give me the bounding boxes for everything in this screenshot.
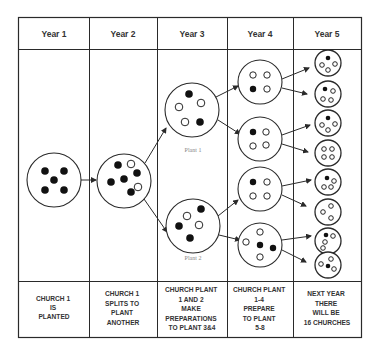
member-open-dot-icon [329,216,334,221]
church-circle-year2-1 [97,154,151,208]
footer-year-4: CHURCH PLANT 1-4 PREPARE TO PLANT 5-8 [233,286,287,331]
member-open-dot-icon [321,246,326,251]
member-filled-dot-icon [114,161,122,169]
member-open-dot-icon [264,193,270,199]
arrow-icon [282,125,310,135]
church-circle-year5-2 [315,81,341,107]
plant-1-label: Plant 1 [185,147,202,153]
member-open-dot-icon [263,142,269,148]
member-filled-dot-icon [196,118,204,126]
member-filled-dot-icon [323,87,328,92]
member-open-dot-icon [326,68,331,73]
header-year-4: Year 4 [247,29,272,39]
member-filled-dot-icon [60,167,68,175]
plant-2-label: Plant 2 [185,255,202,261]
header-year-5: Year 5 [314,29,339,39]
member-open-dot-icon [330,147,335,152]
member-filled-dot-icon [41,167,49,175]
arrow-icon [282,88,307,94]
member-filled-dot-icon [133,169,141,177]
member-open-dot-icon [322,185,327,190]
member-open-dot-icon [333,122,338,127]
member-open-dot-icon [332,267,337,272]
member-open-dot-icon [331,89,336,94]
member-filled-dot-icon [186,234,194,242]
member-filled-dot-icon [257,242,263,248]
member-open-dot-icon [322,147,327,152]
member-filled-dot-icon [325,176,330,181]
arrow-icon [218,120,240,134]
member-filled-dot-icon [41,186,49,194]
footer-year-2: CHURCH 1 SPLITS TO PLANT ANOTHER [105,290,141,326]
member-filled-dot-icon [326,116,331,121]
member-open-dot-icon [127,160,135,168]
member-filled-dot-icon [127,188,135,196]
member-open-dot-icon [332,179,337,184]
arrow-icon [282,144,308,152]
member-filled-dot-icon [185,90,193,98]
member-open-dot-icon [321,210,326,215]
church-circle-year5-5 [315,169,341,195]
member-open-dot-icon [250,72,256,78]
church-circle-year4-2 [238,117,282,161]
member-filled-dot-icon [250,129,256,135]
church-circle-year5-4 [315,140,341,166]
arrow-icon [145,128,166,163]
footer-year-1: CHURCH 1 IS PLANTED [36,295,72,320]
member-filled-dot-icon [107,178,115,186]
church-circle-year3-2 [166,199,220,253]
member-open-dot-icon [264,72,270,78]
member-open-dot-icon [319,262,324,267]
footer-year-5: NEXT YEAR THERE WILL BE 16 CHURCHES [304,290,351,326]
church-circle-year1-1 [27,153,81,207]
church-circle-year4-4 [238,223,282,267]
member-filled-dot-icon [250,86,256,92]
member-open-dot-icon [329,185,334,190]
member-open-dot-icon [195,221,203,229]
header-year-3: Year 3 [179,29,204,39]
church-circle-year4-1 [238,60,282,104]
member-filled-dot-icon [326,56,331,61]
church-circle-year5-6 [315,199,341,225]
arrow-icon [282,236,311,240]
member-open-dot-icon [264,86,270,92]
member-open-dot-icon [263,129,269,135]
member-open-dot-icon [181,118,189,126]
member-open-dot-icon [326,128,331,133]
member-open-dot-icon [134,183,142,191]
member-open-dot-icon [250,193,256,199]
member-filled-dot-icon [50,176,58,184]
member-filled-dot-icon [326,264,331,269]
member-open-dot-icon [320,63,325,68]
church-circle-year5-3 [315,110,341,136]
church-circle-year5-8 [315,252,341,278]
member-open-dot-icon [250,143,256,149]
header-year-2: Year 2 [110,29,135,39]
header-year-1: Year 1 [41,29,66,39]
member-open-dot-icon [321,97,326,102]
member-open-dot-icon [331,234,336,239]
member-filled-dot-icon [120,175,128,183]
member-open-dot-icon [257,254,263,260]
member-open-dot-icon [320,123,325,128]
church-planting-diagram: Year 1 Year 2 Year 3 Year 4 Year 5 CHURC… [0,0,381,356]
header-row: Year 1 Year 2 Year 3 Year 4 Year 5 [41,29,339,39]
member-open-dot-icon [322,155,327,160]
member-open-dot-icon [264,179,270,185]
member-open-dot-icon [197,99,205,107]
member-open-dot-icon [330,155,335,160]
church-circle-year3-1 [165,83,219,137]
member-open-dot-icon [257,229,263,235]
member-filled-dot-icon [197,205,205,213]
arrow-icon [282,180,311,186]
arrow-icon [282,68,309,79]
member-open-dot-icon [175,103,183,111]
member-filled-dot-icon [60,186,68,194]
church-circle-year4-3 [238,167,282,211]
member-open-dot-icon [329,98,334,103]
member-filled-dot-icon [175,222,183,230]
footer-year-3: CHURCH PLANT 1 AND 2 MAKE PREPARATIONS T… [165,286,219,331]
member-open-dot-icon [323,240,328,245]
church-circle-year5-1 [315,50,341,76]
church-circle-year5-7 [315,228,341,254]
